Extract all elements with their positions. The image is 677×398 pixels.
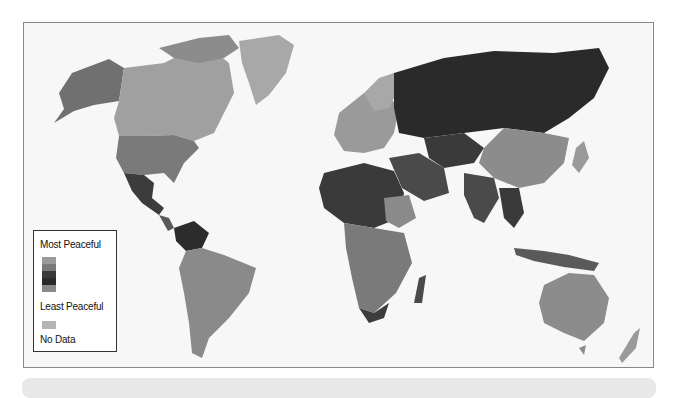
region-south-america[interactable] xyxy=(179,248,256,358)
legend-swatch-1 xyxy=(42,257,56,264)
region-east-africa[interactable] xyxy=(384,195,416,228)
world-map xyxy=(24,23,654,368)
region-alaska[interactable] xyxy=(54,59,124,123)
legend-swatch-3 xyxy=(42,271,56,278)
region-tasmania[interactable] xyxy=(579,345,586,355)
region-japan[interactable] xyxy=(572,141,589,173)
legend-swatch-4 xyxy=(42,278,56,285)
region-indonesia[interactable] xyxy=(514,248,599,271)
region-madagascar[interactable] xyxy=(414,275,426,303)
region-greenland[interactable] xyxy=(239,35,294,105)
legend-swatch-2 xyxy=(42,264,56,271)
region-se-asia[interactable] xyxy=(499,188,524,228)
region-canada[interactable] xyxy=(114,51,234,141)
bottom-bar xyxy=(22,378,656,398)
region-colombia[interactable] xyxy=(174,221,209,251)
legend-nodata-label: No Data xyxy=(40,334,75,345)
region-southern-africa[interactable] xyxy=(344,223,412,313)
map-legend: Most Peaceful Least Peaceful No Data xyxy=(33,230,117,352)
legend-swatch-5 xyxy=(42,285,56,292)
region-new-zealand[interactable] xyxy=(619,328,640,363)
region-russia[interactable] xyxy=(394,48,609,138)
region-australia[interactable] xyxy=(539,273,609,341)
legend-nodata-swatch xyxy=(42,321,56,329)
region-arctic-islands[interactable] xyxy=(159,35,239,63)
legend-most-peaceful-label: Most Peaceful xyxy=(40,239,101,250)
legend-least-peaceful-label: Least Peaceful xyxy=(40,301,103,312)
region-central-america[interactable] xyxy=(159,215,174,231)
region-india[interactable] xyxy=(464,173,499,223)
region-mexico[interactable] xyxy=(124,173,164,215)
map-frame: Most Peaceful Least Peaceful No Data xyxy=(23,22,654,368)
